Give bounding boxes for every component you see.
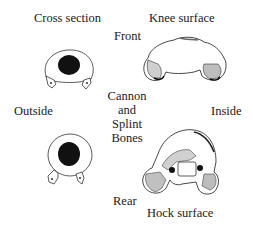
outside-label: Outside bbox=[14, 104, 53, 118]
cross-section-bottom-figure bbox=[40, 132, 100, 190]
marrow-cavity bbox=[58, 142, 80, 166]
knee-surface-label: Knee surface bbox=[149, 11, 215, 25]
hock-surface-figure bbox=[138, 122, 230, 202]
marrow-cavity bbox=[58, 55, 80, 75]
knee-surface-figure bbox=[140, 30, 232, 90]
hock-surface-label: Hock surface bbox=[147, 206, 213, 220]
cross-section-top-figure bbox=[40, 45, 100, 95]
label-line: Cannon bbox=[100, 89, 154, 103]
front-label: Front bbox=[114, 29, 141, 43]
inside-label: Inside bbox=[211, 104, 242, 118]
splint-bone bbox=[48, 170, 58, 184]
rear-label: Rear bbox=[113, 194, 137, 208]
cross-section-label: Cross section bbox=[34, 11, 101, 25]
label-line: and bbox=[100, 103, 154, 117]
